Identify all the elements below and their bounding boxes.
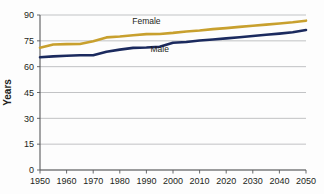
y-axis-title: Years <box>2 79 13 106</box>
x-tick-label: 1980 <box>110 176 130 186</box>
x-tick-label: 1970 <box>83 176 103 186</box>
y-tick-label: 15 <box>24 139 34 149</box>
x-tick-label: 2030 <box>243 176 263 186</box>
x-tick-label: 1990 <box>136 176 156 186</box>
y-tick-label: 45 <box>24 88 34 98</box>
x-tick-label: 2050 <box>296 176 316 186</box>
chart-plot-area: 0153045607590195019601970198019902000201… <box>0 0 324 194</box>
x-tick-label: 1960 <box>57 176 77 186</box>
x-tick-label: 1950 <box>30 176 50 186</box>
series-label-female: Female <box>132 16 161 26</box>
life-expectancy-line-chart: 0153045607590195019601970198019902000201… <box>0 0 324 194</box>
x-tick-label: 2010 <box>190 176 210 186</box>
x-tick-label: 2040 <box>269 176 289 186</box>
y-tick-label: 30 <box>24 114 34 124</box>
x-tick-label: 2000 <box>163 176 183 186</box>
y-tick-label: 60 <box>24 62 34 72</box>
y-tick-label: 0 <box>29 165 34 175</box>
x-tick-label: 2020 <box>216 176 236 186</box>
y-tick-label: 90 <box>24 10 34 20</box>
y-tick-label: 75 <box>24 36 34 46</box>
series-label-male: Male <box>150 44 169 54</box>
